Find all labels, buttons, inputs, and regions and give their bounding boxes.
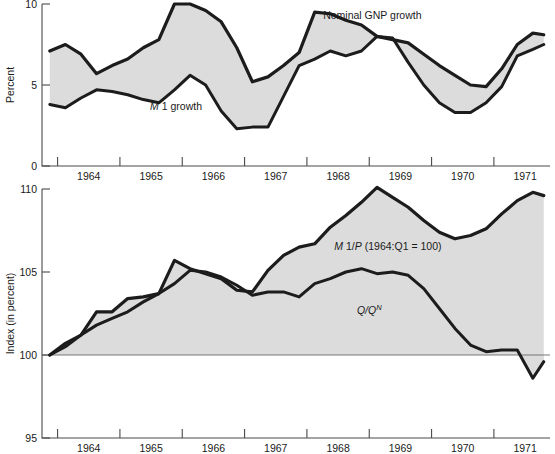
x-tick-label: 1969 [389,170,413,182]
m1-growth-label: M 1 growth [150,100,202,112]
x-tick-label: 1966 [202,442,226,454]
x-tick-label: 1971 [513,442,537,454]
y-tick-label: 0 [31,160,37,172]
x-tick-label: 1970 [451,442,475,454]
y-tick-label: 100 [19,349,37,361]
x-tick-label: 1971 [513,170,537,182]
x-tick-label: 1966 [202,170,226,182]
y-axis-title: Index (in percent) [4,273,16,355]
nominal-gnp-growth-label: Nominal GNP growth [323,9,422,21]
x-tick-label: 1969 [389,442,413,454]
x-tick-label: 1968 [326,170,350,182]
x-tick-label: 1965 [139,442,163,454]
x-tick-label: 1967 [264,442,288,454]
y-axis-title: Percent [4,67,16,103]
chart-canvas: 051019641965196619671968196919701971Perc… [0,0,555,454]
x-tick-label: 1965 [139,170,163,182]
series-band-fill [50,4,544,129]
y-tick-label: 10 [25,0,37,10]
top-chart: 051019641965196619671968196919701971Perc… [4,0,550,182]
bottom-chart: 9510010511019641965196619671968196919701… [4,183,550,454]
y-tick-label: 95 [25,432,37,444]
x-tick-label: 1968 [326,442,350,454]
figure-money-and-output-chart: 051019641965196619671968196919701971Perc… [0,0,555,454]
y-tick-label: 110 [20,183,37,195]
x-tick-label: 1970 [451,170,475,182]
m1-over-p-label: M 1/P (1964:Q1 = 100) [334,240,441,252]
x-tick-label: 1964 [77,170,101,182]
y-tick-label: 105 [19,266,37,278]
y-tick-label: 5 [31,79,37,91]
x-tick-label: 1967 [264,170,288,182]
x-tick-label: 1964 [77,442,101,454]
